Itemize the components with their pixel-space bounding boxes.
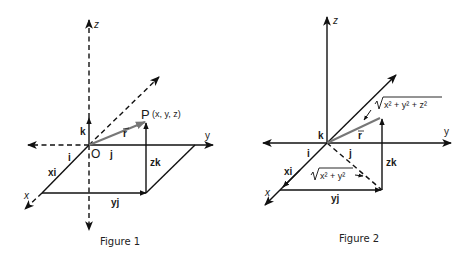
y-axis-label: y [205,130,210,141]
yj-label: yj [111,197,120,208]
r-label: r [358,130,362,141]
zk-label: zk [386,157,397,168]
j-label: j [348,148,352,159]
i-label: i [307,148,310,159]
figure-2-caption: Figure 2 [339,233,379,244]
magnitude-2d-text: x² + y² [320,171,345,181]
magnitude-2d-pointer [355,175,363,176]
xi-label: xi [48,167,57,178]
origin-label: O [91,147,100,161]
figure-1: z y x O P (x, y, z) k i j r xi yj zk Fig… [23,19,213,247]
figure-2: x² + y² + z² x² + y² z y x k i j r xi yj… [263,15,451,244]
point-label: P [141,107,150,122]
yj-label: yj [331,193,340,204]
k-label: k [318,130,324,141]
y-axis-label: y [444,126,449,137]
x-axis-label: x [23,190,30,201]
magnitude-2d-label: x² + y² [311,168,353,181]
j-label: j [109,149,113,160]
position-vector-r [89,122,145,145]
i-label: i [68,152,71,163]
magnitude-3d-text: x² + y² + z² [384,100,427,110]
zk-label: zk [150,157,161,168]
xy-projection [327,143,382,190]
x-axis-label: x [264,187,271,198]
point-coordinates: (x, y, z) [152,109,181,119]
magnitude-3d-pointer [364,110,371,120]
figure-1-caption: Figure 1 [100,236,140,247]
magnitude-3d-label: x² + y² + z² [375,97,442,110]
xi-label: xi [284,166,293,177]
position-vector-r [327,118,380,143]
figures-canvas: z y x O P (x, y, z) k i j r xi yj zk Fig… [0,0,474,253]
z-axis-label: z [332,15,338,26]
z-axis-label: z [93,19,99,30]
parallelogram-edge [146,145,195,193]
r-label: r [123,128,127,139]
k-label: k [80,126,86,137]
